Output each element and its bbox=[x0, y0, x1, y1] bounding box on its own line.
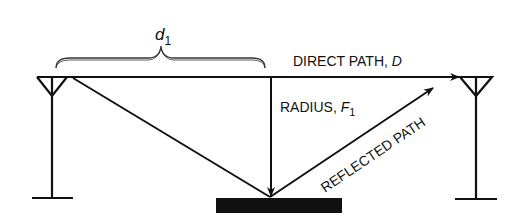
receive-antenna bbox=[455, 77, 497, 199]
reflecting-surface bbox=[216, 198, 342, 213]
incident-path-line bbox=[73, 78, 270, 197]
radius-label: RADIUS, F1 bbox=[280, 99, 355, 118]
fresnel-diagram: d1 DIRECT PATH, D RADIUS, F1 REFLECTED P… bbox=[0, 0, 525, 220]
transmit-antenna bbox=[32, 77, 73, 198]
direct-path-label: DIRECT PATH, D bbox=[293, 53, 402, 69]
distance-label: d1 bbox=[155, 25, 171, 48]
